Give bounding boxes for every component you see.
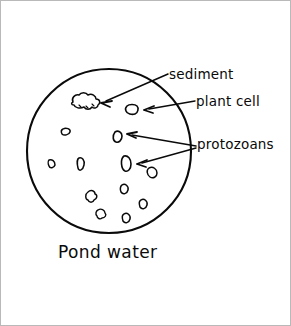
label-sediment: sediment: [169, 68, 234, 82]
plant-cell-leader-line: [149, 101, 195, 109]
debris-particle: [48, 160, 55, 168]
debris-particle: [86, 191, 97, 203]
figure-frame: sediment plant cell protozoans Pond wate…: [0, 0, 291, 326]
protozoan-shape-2: [121, 156, 131, 171]
figure-caption: Pond water: [58, 244, 157, 261]
debris-particle: [120, 184, 128, 193]
protozoans-leader-line-2: [142, 148, 196, 163]
protozoans-leader-line-1: [132, 135, 196, 146]
debris-particle: [77, 158, 84, 170]
debris-particle: [122, 213, 130, 222]
debris-particle: [139, 199, 147, 208]
sediment-leader-line: [106, 74, 168, 101]
debris-particle: [61, 128, 70, 135]
sediment-arrowhead: [101, 101, 112, 107]
debris-particle: [147, 167, 157, 177]
plant-cell-shape: [126, 105, 138, 115]
label-protozoans: protozoans: [197, 138, 274, 152]
sediment-blob: [72, 93, 100, 110]
protozoan-shape-1: [113, 131, 122, 142]
field-of-view-circle: [27, 69, 191, 233]
debris-particle: [96, 209, 106, 219]
pond-water-diagram: [1, 1, 291, 326]
label-plant-cell: plant cell: [196, 95, 260, 109]
